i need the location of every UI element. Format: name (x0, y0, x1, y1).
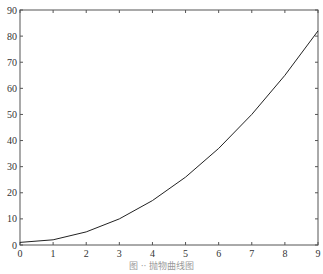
y-tick-label: 0 (12, 240, 17, 251)
figure-caption: 图 ‧‧ 抛物曲线图 (0, 259, 323, 272)
plot-frame (20, 10, 318, 245)
y-tick-label: 50 (7, 109, 17, 120)
x-tick-label: 3 (117, 248, 122, 259)
x-tick-label: 1 (51, 248, 56, 259)
x-tick-label: 9 (316, 248, 321, 259)
y-tick-label: 60 (7, 83, 17, 94)
y-tick-label: 10 (7, 213, 17, 224)
x-tick-label: 6 (216, 248, 221, 259)
y-tick-label: 40 (7, 135, 17, 146)
x-axis-ticks: 0123456789 (18, 10, 321, 259)
x-tick-label: 5 (183, 248, 188, 259)
y-tick-label: 80 (7, 31, 17, 42)
y-tick-label: 70 (7, 57, 17, 68)
x-tick-label: 8 (282, 248, 287, 259)
x-tick-label: 2 (84, 248, 89, 259)
y-axis-ticks: 0102030405060708090 (7, 5, 318, 251)
line-chart: 0102030405060708090 0123456789 (0, 0, 323, 274)
series-line (20, 31, 318, 243)
x-tick-label: 4 (150, 248, 155, 259)
y-tick-label: 30 (7, 161, 17, 172)
y-tick-label: 20 (7, 187, 17, 198)
x-tick-label: 0 (18, 248, 23, 259)
x-tick-label: 7 (249, 248, 254, 259)
y-tick-label: 90 (7, 5, 17, 16)
